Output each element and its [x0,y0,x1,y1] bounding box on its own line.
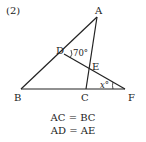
problem-number: (2) [6,5,20,16]
label-F: F [128,92,135,103]
condition-2: AD = AE [0,125,146,137]
label-B: B [14,92,21,103]
angle-label-F: x° [100,80,109,90]
condition-1: AC = BC [0,112,146,124]
angle-arc-F [112,82,113,89]
label-A: A [94,5,103,16]
label-E: E [92,61,99,72]
label-D: D [56,45,64,56]
label-C: C [81,92,89,103]
angle-arc-D [70,50,72,58]
angle-label-D: 70° [73,48,88,58]
